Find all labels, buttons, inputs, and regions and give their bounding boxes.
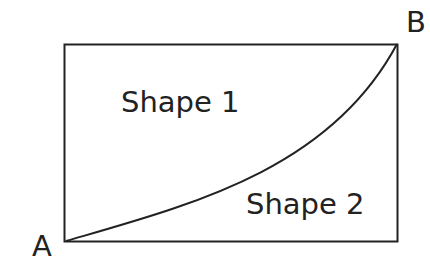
label-shape-2: Shape 2 (246, 190, 364, 219)
label-point-a: A (32, 232, 52, 261)
diagram-canvas (0, 0, 430, 272)
label-point-b: B (406, 8, 426, 37)
label-shape-1: Shape 1 (121, 88, 239, 117)
